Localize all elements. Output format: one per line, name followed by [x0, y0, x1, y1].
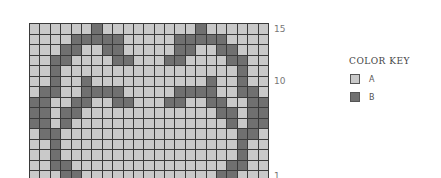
chart-cell	[227, 56, 237, 67]
chart-cell	[103, 45, 113, 56]
chart-cell	[165, 56, 175, 67]
chart-cell	[124, 150, 134, 161]
color-key-label-a: A	[369, 75, 374, 84]
chart-cell	[259, 77, 269, 88]
chart-cell	[196, 35, 206, 46]
chart-cell	[196, 119, 206, 130]
chart-cell	[124, 24, 134, 35]
chart-cell	[144, 98, 154, 109]
chart-cell	[61, 119, 71, 130]
chart-cell	[207, 35, 217, 46]
chart-cell	[217, 129, 227, 140]
chart-cell	[207, 24, 217, 35]
chart-cell	[124, 45, 134, 56]
chart-cell	[61, 150, 71, 161]
chart-cell	[30, 45, 40, 56]
chart-cell	[72, 129, 82, 140]
chart-cell	[248, 87, 258, 98]
chart-cell	[217, 108, 227, 119]
chart-cell	[144, 108, 154, 119]
chart-cell	[144, 171, 154, 178]
chart-cell	[155, 108, 165, 119]
chart-cell	[196, 108, 206, 119]
chart-cell	[238, 108, 248, 119]
chart-cell	[92, 87, 102, 98]
chart-cell	[124, 108, 134, 119]
chart-cell	[217, 87, 227, 98]
chart-cell	[238, 119, 248, 130]
chart-cell	[82, 66, 92, 77]
chart-cell	[72, 140, 82, 151]
chart-cell	[186, 35, 196, 46]
chart-cell	[113, 140, 123, 151]
chart-cell	[82, 119, 92, 130]
chart-cell	[134, 24, 144, 35]
chart-cell	[103, 35, 113, 46]
chart-cell	[134, 87, 144, 98]
chart-cell	[175, 66, 185, 77]
chart-cell	[82, 56, 92, 67]
chart-cell	[248, 140, 258, 151]
swatch-a-icon	[350, 74, 360, 84]
chart-cell	[92, 24, 102, 35]
chart-cell	[92, 161, 102, 172]
chart-cell	[175, 77, 185, 88]
chart-cell	[207, 150, 217, 161]
chart-cell	[82, 150, 92, 161]
chart-cell	[61, 35, 71, 46]
chart-cell	[144, 87, 154, 98]
chart-cell	[82, 140, 92, 151]
chart-cell	[30, 87, 40, 98]
chart-cell	[259, 129, 269, 140]
chart-cell	[238, 129, 248, 140]
chart-cell	[103, 119, 113, 130]
chart-cell	[175, 129, 185, 140]
chart-cell	[124, 129, 134, 140]
chart-cell	[186, 24, 196, 35]
chart-cell	[113, 150, 123, 161]
chart-cell	[72, 171, 82, 178]
chart-cell	[40, 45, 50, 56]
chart-cell	[227, 119, 237, 130]
chart-cell	[144, 150, 154, 161]
chart-cell	[217, 77, 227, 88]
chart-cell	[92, 171, 102, 178]
chart-cell	[51, 119, 61, 130]
chart-cell	[175, 98, 185, 109]
chart-cell	[186, 171, 196, 178]
chart-cell	[103, 171, 113, 178]
swatch-b-icon	[350, 92, 360, 102]
chart-cell	[40, 119, 50, 130]
chart-cell	[82, 108, 92, 119]
chart-cell	[186, 45, 196, 56]
chart-cell	[92, 119, 102, 130]
chart-cell	[165, 129, 175, 140]
chart-cell	[113, 171, 123, 178]
color-key-item-a: A	[350, 74, 410, 84]
chart-cell	[155, 35, 165, 46]
chart-cell	[248, 35, 258, 46]
chart-cell	[207, 161, 217, 172]
chart-cell	[248, 161, 258, 172]
chart-cell	[82, 24, 92, 35]
chart-cell	[175, 150, 185, 161]
chart-cell	[259, 45, 269, 56]
chart-cell	[103, 150, 113, 161]
row-label: 15	[274, 24, 285, 34]
chart-cell	[30, 119, 40, 130]
chart-cell	[40, 150, 50, 161]
chart-cell	[103, 87, 113, 98]
chart-cell	[175, 35, 185, 46]
color-key-title: COLOR KEY	[349, 56, 410, 66]
chart-cell	[196, 77, 206, 88]
chart-cell	[248, 171, 258, 178]
chart-cell	[217, 24, 227, 35]
chart-cell	[144, 140, 154, 151]
chart-cell	[259, 108, 269, 119]
chart-cell	[155, 129, 165, 140]
chart-cell	[103, 98, 113, 109]
chart-cell	[72, 66, 82, 77]
chart-cell	[72, 98, 82, 109]
chart-cell	[165, 119, 175, 130]
chart-cell	[238, 140, 248, 151]
